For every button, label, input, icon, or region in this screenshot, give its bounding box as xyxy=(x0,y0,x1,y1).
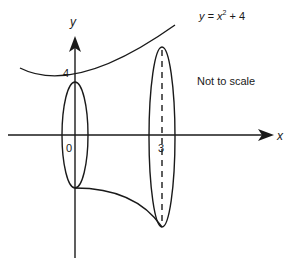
solid-of-revolution-diagram: y x 4 0 3 Not to scale y = x2 + 4 xyxy=(0,0,292,273)
curve-eq-prefix: y = x xyxy=(198,10,223,22)
lower-curve xyxy=(75,188,162,227)
curve-equation-label: y = x2 + 4 xyxy=(198,9,245,22)
y-intercept-label: 4 xyxy=(63,67,69,79)
x-axis xyxy=(8,129,274,141)
origin-label: 0 xyxy=(66,142,72,154)
x-mark-label: 3 xyxy=(158,142,164,154)
y-axis-label: y xyxy=(69,15,77,29)
curve-eq-suffix: + 4 xyxy=(226,10,245,22)
upper-curve xyxy=(20,25,175,76)
not-to-scale-note: Not to scale xyxy=(197,75,255,87)
x-axis-label: x xyxy=(276,129,284,143)
